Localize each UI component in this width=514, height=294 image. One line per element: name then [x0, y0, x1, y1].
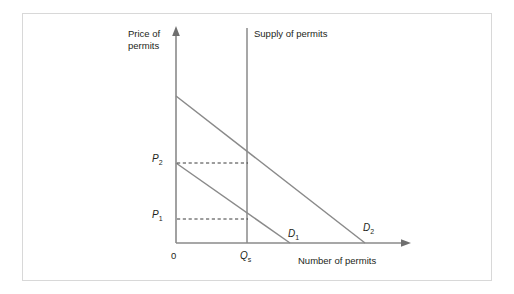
supply-curve-label: Supply of permits	[254, 28, 327, 40]
chart-canvas	[0, 0, 514, 294]
quantity-label-qs-base: Q	[240, 250, 248, 261]
demand-label-d1: D1	[288, 228, 299, 244]
demand-label-d1-sub: 1	[295, 234, 299, 241]
price-label-p1-base: P	[152, 209, 159, 220]
demand-curve-d2	[176, 96, 365, 243]
price-label-p1: P1	[152, 209, 163, 225]
x-axis-label: Number of permits	[298, 255, 376, 267]
quantity-label-qs-sub: s	[248, 256, 252, 263]
y-axis-label-line1: Price of	[128, 28, 160, 39]
y-axis	[172, 26, 180, 243]
y-axis-label: Price of permits	[128, 28, 174, 51]
price-label-p2: P2	[152, 153, 163, 169]
origin-label: 0	[171, 250, 176, 262]
y-axis-label-line2: permits	[128, 40, 159, 51]
price-label-p2-sub: 2	[159, 159, 163, 166]
price-label-p2-base: P	[152, 153, 159, 164]
demand-label-d2: D2	[363, 222, 374, 238]
figure-root: Price of permits Supply of permits Numbe…	[0, 0, 514, 294]
demand-label-d2-sub: 2	[370, 228, 374, 235]
price-label-p1-sub: 1	[159, 215, 163, 222]
quantity-label-qs: Qs	[240, 250, 251, 266]
demand-curve-d1	[176, 163, 290, 243]
